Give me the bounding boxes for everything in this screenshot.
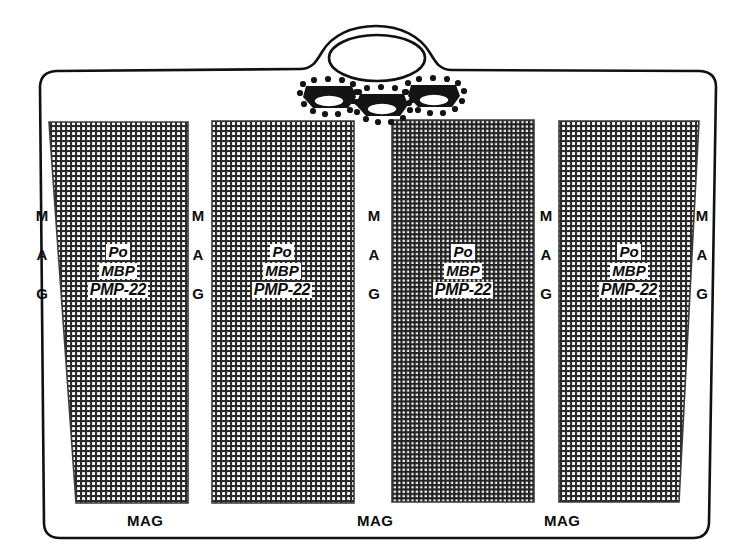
- mag-horizontal-3: MAG: [544, 512, 581, 529]
- mag-horizontal-1: MAG: [127, 512, 164, 529]
- mag-vertical-5-a: A: [692, 246, 712, 263]
- gene-labels-block-1: Po MBP PMP-22: [58, 243, 178, 300]
- mag-vertical-4-g: G: [536, 285, 556, 302]
- internode-block-2: [212, 121, 354, 503]
- gene-label-pmp22-3: PMP-22: [433, 282, 494, 299]
- gene-label-pmp22-4: PMP-22: [599, 282, 660, 299]
- internode-block-4: [559, 121, 699, 502]
- mag-vertical-5-g: G: [692, 285, 712, 302]
- gene-label-mbp-1: MBP: [99, 263, 136, 279]
- mag-vertical-1-g: G: [32, 285, 52, 302]
- mag-horizontal-2: MAG: [357, 512, 394, 529]
- mag-vertical-4-m: M: [536, 207, 556, 224]
- mag-vertical-4: M A G: [536, 207, 556, 302]
- mag-vertical-1-a: A: [32, 246, 52, 263]
- mag-vertical-3-m: M: [364, 207, 384, 224]
- mag-vertical-3-g: G: [364, 285, 384, 302]
- mag-vertical-2: M A G: [188, 207, 208, 302]
- gene-label-po-1: Po: [106, 244, 129, 260]
- mag-vertical-5: M A G: [692, 207, 712, 302]
- nucleus-oval: [329, 35, 425, 81]
- gene-labels-block-2: Po MBP PMP-22: [222, 243, 342, 300]
- gene-label-pmp22-1: PMP-22: [88, 282, 149, 299]
- gene-label-mbp-3: MBP: [444, 263, 481, 279]
- internode-block-3: [392, 120, 534, 502]
- mag-vertical-1-m: M: [32, 207, 52, 224]
- mag-vertical-2-a: A: [188, 246, 208, 263]
- mag-vertical-4-a: A: [536, 246, 556, 263]
- gene-label-mbp-4: MBP: [610, 263, 647, 279]
- mag-vertical-2-m: M: [188, 207, 208, 224]
- gene-labels-block-4: Po MBP PMP-22: [569, 243, 689, 300]
- mag-vertical-1: M A G: [32, 207, 52, 302]
- mag-vertical-3-a: A: [364, 246, 384, 263]
- mag-vertical-5-m: M: [692, 207, 712, 224]
- gene-label-po-2: Po: [270, 244, 293, 260]
- mag-vertical-3: M A G: [364, 207, 384, 302]
- gene-label-po-4: Po: [617, 244, 640, 260]
- gene-label-mbp-2: MBP: [263, 263, 300, 279]
- gene-label-pmp22-2: PMP-22: [252, 282, 313, 299]
- mag-vertical-2-g: G: [188, 285, 208, 302]
- gene-label-po-3: Po: [451, 244, 474, 260]
- gene-labels-block-3: Po MBP PMP-22: [403, 243, 523, 300]
- figure-canvas: M A G M A G M A G M A G M A G Po MBP PMP…: [0, 0, 744, 559]
